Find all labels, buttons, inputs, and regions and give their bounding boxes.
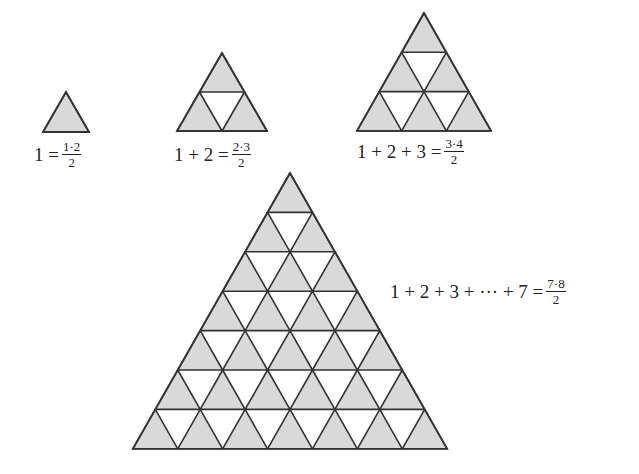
equation-1-denominator: 2 xyxy=(68,155,75,169)
shaded-triangle xyxy=(357,331,402,370)
triangle-3-rows xyxy=(357,13,491,131)
shaded-triangle xyxy=(223,252,268,291)
shaded-triangle xyxy=(290,291,335,330)
equation-3-numerator: 3·4 xyxy=(444,137,463,152)
shaded-triangle xyxy=(268,252,313,291)
equation-7-denominator: 2 xyxy=(553,292,560,306)
triangle-7-rows xyxy=(133,173,447,449)
shaded-triangle xyxy=(155,370,200,409)
equation-2-numerator: 2·3 xyxy=(232,140,251,155)
equation-7-lhs: 1 + 2 + 3 + ··· + 7 = xyxy=(390,282,543,301)
equation-3: 1 + 2 + 3 = 3·4 2 xyxy=(357,137,464,166)
shaded-triangle xyxy=(245,212,290,251)
shaded-triangle xyxy=(177,92,222,131)
equation-3-lhs: 1 + 2 + 3 = xyxy=(357,142,441,161)
shaded-triangle xyxy=(178,409,223,448)
shaded-triangle xyxy=(200,370,245,409)
equation-3-denominator: 2 xyxy=(451,152,458,166)
shaded-triangle xyxy=(335,291,380,330)
shaded-triangle xyxy=(402,92,447,131)
equation-3-fraction: 3·4 2 xyxy=(444,137,463,166)
equation-7-numerator: 7·8 xyxy=(546,277,565,292)
shaded-triangle xyxy=(379,52,424,91)
equation-7: 1 + 2 + 3 + ··· + 7 = 7·8 2 xyxy=(390,277,566,306)
shaded-triangle xyxy=(268,173,313,212)
equation-1-lhs: 1 = xyxy=(34,145,59,164)
shaded-triangle xyxy=(380,370,425,409)
equation-2-lhs: 1 + 2 = xyxy=(174,145,229,164)
shaded-triangle xyxy=(402,409,447,448)
equation-7-fraction: 7·8 2 xyxy=(546,277,565,306)
equation-2: 1 + 2 = 2·3 2 xyxy=(174,140,251,169)
triangle-1-row xyxy=(43,92,89,132)
equation-2-fraction: 2·3 2 xyxy=(232,140,251,169)
shaded-triangle xyxy=(43,92,89,132)
triangular-numbers-figure xyxy=(0,0,639,474)
shaded-triangle xyxy=(312,409,357,448)
shaded-triangle xyxy=(424,52,469,91)
shaded-triangle xyxy=(222,92,267,131)
shaded-triangle xyxy=(357,92,402,131)
shaded-triangle xyxy=(268,409,313,448)
shaded-triangle xyxy=(178,331,223,370)
shaded-triangle xyxy=(268,331,313,370)
shaded-triangle xyxy=(312,252,357,291)
shaded-triangle xyxy=(223,409,268,448)
shaded-triangle xyxy=(245,370,290,409)
shaded-triangle xyxy=(223,331,268,370)
shaded-triangle xyxy=(290,212,335,251)
equation-1-numerator: 1·2 xyxy=(62,140,81,155)
shaded-triangle xyxy=(312,331,357,370)
equation-1: 1 = 1·2 2 xyxy=(34,140,81,169)
shaded-triangle xyxy=(245,291,290,330)
equation-1-fraction: 1·2 2 xyxy=(62,140,81,169)
shaded-triangle xyxy=(290,370,335,409)
equation-2-denominator: 2 xyxy=(238,155,245,169)
shaded-triangle xyxy=(200,291,245,330)
shaded-triangle xyxy=(335,370,380,409)
shaded-triangle xyxy=(446,92,491,131)
shaded-triangle xyxy=(200,53,245,92)
shaded-triangle xyxy=(357,409,402,448)
shaded-triangle xyxy=(133,409,178,448)
shaded-triangle xyxy=(402,13,447,52)
triangle-2-rows xyxy=(177,53,267,131)
